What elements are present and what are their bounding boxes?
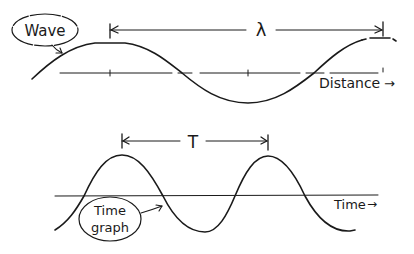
time-panel: T Time graph Time →: [55, 132, 378, 241]
time-graph-label-bubble: Time graph: [79, 197, 162, 241]
wavelength-dimension: λ: [110, 19, 383, 40]
wave-label: Wave: [24, 22, 65, 40]
wave-curve-dashed-end: [362, 38, 396, 41]
distance-arrow-icon: →: [384, 76, 395, 91]
distance-label: Distance: [319, 75, 380, 91]
time-graph-label-line2: graph: [91, 220, 129, 235]
time-graph-pointer-arrow: [141, 206, 162, 213]
wavelength-symbol: λ: [256, 19, 267, 40]
distance-panel: λ Wave Distance →: [12, 14, 396, 103]
period-dimension: T: [122, 132, 268, 152]
time-axis: [55, 195, 378, 196]
wave-diagram: λ Wave Distance → T: [0, 0, 414, 254]
time-label: Time: [333, 197, 366, 212]
wave-label-bubble: Wave: [12, 14, 78, 53]
time-graph-label-line1: Time: [93, 203, 126, 218]
distance-axis-label: Distance →: [319, 75, 395, 91]
time-arrow-icon: →: [367, 197, 377, 211]
wave-curve: [32, 40, 362, 103]
time-axis-label: Time →: [333, 197, 377, 212]
period-symbol: T: [187, 132, 199, 152]
